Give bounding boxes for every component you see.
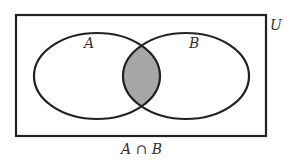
set-b-label: B: [188, 35, 199, 51]
venn-diagram: A B U A ∩ B: [0, 0, 292, 160]
caption: A ∩ B: [119, 141, 162, 157]
universe-label: U: [270, 17, 283, 33]
set-a-label: A: [82, 35, 94, 51]
